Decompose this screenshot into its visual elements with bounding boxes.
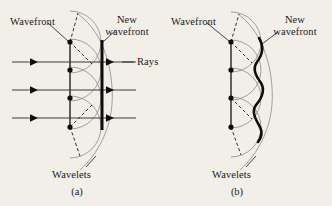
- panel-a-radius-dash-2: [70, 13, 78, 42]
- panel-b-radius-dash-4: [231, 127, 241, 155]
- panel-a-source-dot: [67, 67, 72, 72]
- panel-a-ray-arrowhead-3-left: [30, 114, 38, 122]
- panel-b-wavelets-leader: [246, 156, 256, 167]
- panel-a-wavelet-arc-2: [70, 39, 101, 101]
- panel-a-radius-dash-4: [70, 127, 80, 156]
- figure-root: Wavefront New wavefront Rays Wavelets (a…: [0, 0, 332, 206]
- panel-b-new-wavefront-label: New wavefront: [265, 14, 325, 37]
- panel-a-ray-arrowhead-1-left: [30, 58, 38, 66]
- panel-b-new-wavefront-label-line1: New: [285, 14, 305, 25]
- panel-b-source-dot: [228, 124, 233, 129]
- panel-b-tag: (b): [222, 186, 252, 197]
- panel-a-ray-arrowhead-1-right: [106, 58, 114, 66]
- panel-b-wavelets-label: Wavelets: [212, 169, 251, 181]
- panel-b-source-dot: [228, 67, 233, 72]
- panel-b-radius-dash-2: [231, 14, 239, 42]
- panel-a-new-wavefront-label: New wavefront: [99, 14, 155, 37]
- panel-b-source-dot: [228, 95, 233, 100]
- panel-a-source-dot: [67, 124, 72, 129]
- panel-a-ray-arrowhead-2-left: [30, 86, 38, 94]
- panel-a-tag: (a): [62, 186, 92, 197]
- panel-a-wavelets-label: Wavelets: [52, 169, 91, 181]
- panel-a-radius-dash-3: [70, 105, 92, 127]
- panel-a-source-dot: [67, 95, 72, 100]
- panel-a-rays-label: Rays: [137, 56, 158, 68]
- panel-b-wavefront-label: Wavefront: [171, 16, 216, 28]
- panel-b-radius-dash-3: [231, 98, 252, 119]
- panel-b-wavelet-arc-2: [231, 40, 261, 100]
- panel-a-wavelet-arc-3: [70, 67, 101, 129]
- panel-a-new-wavefront-label-line2: wavefront: [105, 26, 148, 37]
- panel-a-wavelets-leader: [86, 156, 96, 167]
- panel-b-new-wavefront-label-line2: wavefront: [273, 26, 316, 37]
- panel-a-source-dot: [67, 39, 72, 44]
- panel-b-radius-dash-1: [231, 42, 252, 63]
- panel-b-outer-envelope-arc: [238, 14, 272, 170]
- panel-b-source-dot: [228, 39, 233, 44]
- panel-a-wavefront-label: Wavefront: [10, 16, 55, 28]
- panel-a-ray-arrowhead-2-right: [106, 86, 114, 94]
- panel-a-new-wavefront-label-line1: New: [117, 14, 137, 25]
- panel-a-ray-arrowhead-3-right: [106, 114, 114, 122]
- panel-a-wavelet-arc-4: [70, 96, 101, 158]
